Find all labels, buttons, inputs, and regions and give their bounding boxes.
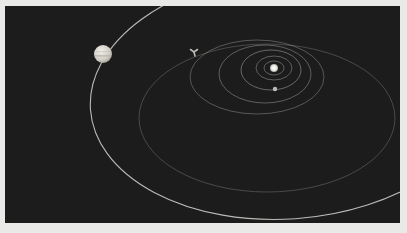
gas-giant-planet-icon[interactable] (94, 45, 112, 63)
solar-system-canvas (5, 6, 400, 223)
sun-icon[interactable] (270, 64, 278, 72)
space-view (5, 6, 400, 223)
transfer-orbit (139, 44, 395, 192)
small-planet-icon[interactable] (273, 87, 277, 91)
orbit-4 (219, 45, 311, 103)
spacecraft-icon[interactable] (191, 50, 198, 57)
